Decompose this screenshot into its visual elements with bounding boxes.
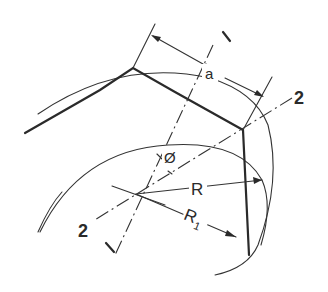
label-a: a bbox=[205, 65, 214, 82]
label-axis2-left: 2 bbox=[78, 221, 88, 241]
arc-outer bbox=[38, 73, 273, 275]
axis-1-tick-top bbox=[223, 32, 230, 41]
geometry-diagram: a 2 2 Ø R R 1 bbox=[0, 0, 328, 292]
arrow-head-icon bbox=[225, 230, 236, 237]
dimension-a-left bbox=[153, 36, 203, 64]
extension-line-left bbox=[133, 24, 155, 68]
label-axis2-right: 2 bbox=[294, 88, 304, 108]
arc-inner bbox=[40, 144, 267, 245]
label-angle: Ø bbox=[164, 149, 176, 166]
label-R: R bbox=[191, 180, 203, 199]
axis-2 bbox=[93, 98, 292, 221]
extension-line-right bbox=[243, 77, 272, 130]
axis-1-tick-bottom bbox=[106, 243, 114, 252]
polygon-edge bbox=[25, 68, 249, 255]
angle-tick bbox=[168, 171, 172, 174]
arc-lower-left bbox=[38, 192, 62, 232]
arrow-head-icon bbox=[151, 35, 161, 42]
